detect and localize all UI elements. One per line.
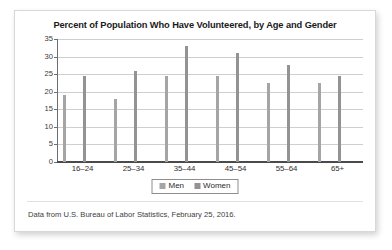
- x-axis-tick-label: 35–44: [159, 164, 210, 173]
- bar-men: [267, 83, 270, 162]
- chart-title: Percent of Population Who Have Volunteer…: [15, 20, 375, 30]
- bars-layer: [57, 39, 363, 162]
- figure-card: Percent of Population Who Have Volunteer…: [14, 10, 376, 232]
- y-axis-tick-label: 0: [49, 158, 53, 166]
- bar-women: [134, 71, 137, 162]
- bar-men: [114, 99, 117, 162]
- legend-label: Women: [203, 182, 230, 190]
- bar-group: [108, 39, 159, 162]
- bar-women: [83, 76, 86, 162]
- x-axis-tick-label: 65+: [312, 164, 363, 173]
- bar-women: [287, 65, 290, 162]
- bar-men: [318, 83, 321, 162]
- y-axis-tick-label: 5: [49, 141, 53, 149]
- bar-men: [63, 95, 66, 162]
- bar-women: [185, 46, 188, 162]
- y-axis-tick-label: 35: [45, 35, 53, 43]
- bar-men: [216, 76, 219, 162]
- bar-group: [57, 39, 108, 162]
- bar-group: [159, 39, 210, 162]
- legend-swatch-icon: [194, 183, 200, 189]
- bar-men: [165, 76, 168, 162]
- bar-women: [236, 53, 239, 162]
- chart-legend: MenWomen: [152, 179, 239, 194]
- source-note: Data from U.S. Bureau of Labor Statistic…: [28, 210, 236, 219]
- x-axis-tick-label: 16–24: [57, 164, 108, 173]
- bar-women: [338, 76, 341, 162]
- legend-swatch-icon: [160, 183, 166, 189]
- legend-item-women: Women: [194, 182, 230, 190]
- plot-wrapper: 05101520253035 16–2425–3435–4445–5455–64…: [33, 39, 363, 174]
- bar-group: [312, 39, 363, 162]
- bar-group: [261, 39, 312, 162]
- x-axis-tick-label: 25–34: [108, 164, 159, 173]
- y-axis-tick-label: 30: [45, 53, 53, 61]
- bar-group: [210, 39, 261, 162]
- x-axis-tick-label: 55–64: [261, 164, 312, 173]
- y-axis-tick-label: 10: [45, 123, 53, 131]
- x-axis-labels: 16–2425–3435–4445–5455–6465+: [57, 164, 363, 178]
- y-axis-tick-label: 15: [45, 105, 53, 113]
- y-axis-tick-label: 20: [45, 88, 53, 96]
- y-axis-labels: 05101520253035: [33, 39, 53, 162]
- x-axis-tick-label: 45–54: [210, 164, 261, 173]
- legend-item-men: Men: [160, 182, 185, 190]
- legend-label: Men: [169, 182, 185, 190]
- source-divider: [27, 201, 363, 202]
- y-axis-tick-label: 25: [45, 70, 53, 78]
